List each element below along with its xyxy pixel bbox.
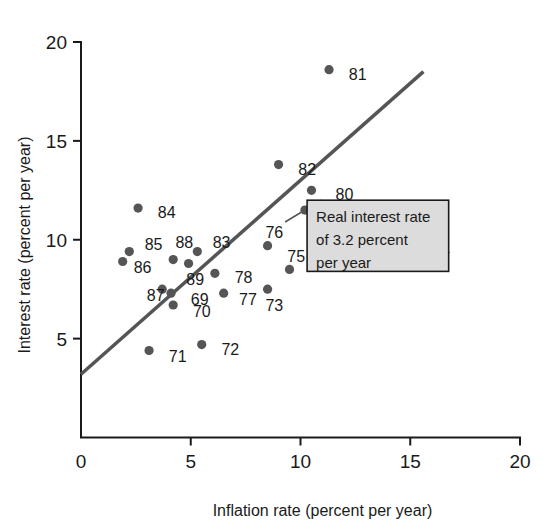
data-point-label: 85	[145, 236, 163, 253]
data-point-label: 70	[193, 303, 211, 320]
data-point-78: 78	[210, 269, 252, 287]
data-point-label: 82	[298, 161, 316, 178]
data-point-70: 70	[169, 300, 211, 320]
scatter-chart: 510152005101520 697071727374757677787980…	[0, 0, 549, 531]
data-point-label: 89	[186, 271, 204, 288]
data-point-label: 71	[169, 348, 187, 365]
data-point-label: 75	[287, 248, 305, 265]
data-point-72: 72	[197, 340, 239, 358]
data-point-marker	[169, 300, 178, 309]
data-point-marker	[263, 285, 272, 294]
data-point-marker	[324, 65, 333, 74]
data-point-marker	[144, 346, 153, 355]
data-point-marker	[184, 259, 193, 268]
chart-canvas: 510152005101520 697071727374757677787980…	[0, 0, 549, 531]
data-point-marker	[274, 160, 283, 169]
data-point-76: 76	[263, 224, 283, 250]
data-point-label: 72	[221, 341, 239, 358]
data-point-marker	[133, 204, 142, 213]
data-point-marker	[125, 247, 134, 256]
callout-text-line: per year	[316, 254, 371, 271]
data-point-82: 82	[274, 160, 316, 178]
data-point-77: 77	[219, 289, 257, 309]
data-point-89: 89	[184, 259, 204, 288]
data-point-label: 81	[349, 66, 367, 83]
data-point-83: 83	[193, 234, 231, 256]
data-point-marker	[210, 269, 219, 278]
x-axis-title: Inflation rate (percent per year)	[213, 502, 433, 519]
data-point-marker	[166, 289, 175, 298]
data-point-marker	[118, 257, 127, 266]
data-point-label: 86	[134, 259, 152, 276]
data-point-label: 84	[158, 204, 176, 221]
y-tick-label: 10	[46, 230, 67, 251]
x-tick-label: 5	[185, 451, 196, 472]
x-tick-label: 10	[290, 451, 311, 472]
data-point-87: 87	[147, 285, 167, 305]
data-point-label: 87	[147, 287, 165, 304]
data-point-marker	[169, 255, 178, 264]
data-point-84: 84	[133, 204, 175, 222]
data-point-86: 86	[118, 257, 151, 277]
callout-text-line: of 3.2 percent	[316, 231, 409, 248]
x-tick-label: 15	[400, 451, 421, 472]
data-point-label: 88	[175, 234, 193, 251]
data-point-label: 78	[235, 269, 253, 286]
data-point-label: 73	[265, 297, 283, 314]
data-point-marker	[263, 241, 272, 250]
y-axis-title: Interest rate (percent per year)	[16, 137, 33, 354]
data-point-label: 83	[213, 234, 231, 251]
data-point-label: 76	[265, 224, 283, 241]
x-tick-label: 0	[76, 451, 87, 472]
data-point-81: 81	[324, 65, 366, 83]
y-tick-label: 15	[46, 131, 67, 152]
y-tick-label: 20	[46, 32, 67, 53]
callout-text-line: Real interest rate	[316, 208, 430, 225]
data-point-marker	[219, 289, 228, 298]
annotation-callout: Real interest rateof 3.2 percentper year	[285, 200, 449, 271]
x-tick-label: 20	[509, 451, 530, 472]
data-point-marker	[197, 340, 206, 349]
data-point-73: 73	[263, 285, 283, 314]
data-point-71: 71	[144, 346, 186, 366]
data-point-85: 85	[125, 236, 163, 257]
data-point-marker	[285, 265, 294, 274]
data-point-75: 75	[285, 248, 305, 274]
data-point-label: 77	[239, 291, 257, 308]
data-point-marker	[193, 247, 202, 256]
y-tick-label: 5	[56, 329, 67, 350]
data-point-marker	[307, 186, 316, 195]
